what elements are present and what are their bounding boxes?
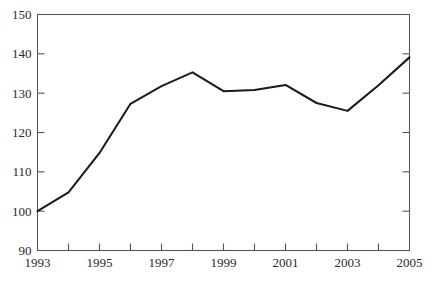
y-tick-label: 110 bbox=[12, 164, 31, 179]
x-tick-label: 2003 bbox=[335, 255, 361, 270]
y-tick-label: 150 bbox=[12, 7, 32, 22]
x-tick-label: 2001 bbox=[273, 255, 299, 270]
x-tick-label: 1993 bbox=[25, 255, 51, 270]
x-tick-label: 1997 bbox=[149, 255, 176, 270]
x-tick-label: 2005 bbox=[397, 255, 423, 270]
x-tick-label: 1999 bbox=[211, 255, 237, 270]
y-axis-ticks bbox=[38, 54, 45, 211]
plot-frame bbox=[38, 15, 410, 251]
y-axis-tick-labels: 90100110120130140150 bbox=[12, 7, 32, 258]
y-tick-label: 140 bbox=[12, 46, 32, 61]
x-axis-tick-labels: 1993199519971999200120032005 bbox=[25, 255, 423, 270]
y-tick-label: 100 bbox=[12, 204, 32, 219]
x-axis-ticks bbox=[69, 244, 379, 251]
y-tick-label: 120 bbox=[12, 125, 32, 140]
data-series-line bbox=[38, 57, 410, 211]
y-axis-ticks-right bbox=[403, 54, 410, 211]
x-tick-label: 1995 bbox=[87, 255, 113, 270]
chart-canvas: 90100110120130140150 1993199519971999200… bbox=[0, 0, 432, 286]
line-chart: 90100110120130140150 1993199519971999200… bbox=[0, 0, 432, 286]
y-tick-label: 130 bbox=[12, 86, 32, 101]
